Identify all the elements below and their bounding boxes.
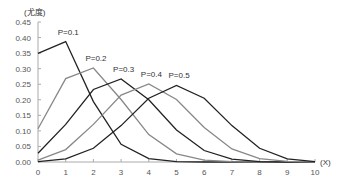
y-tick-label: 0.35 (15, 49, 31, 58)
y-axis-label: (尤度) (24, 7, 46, 17)
x-axis-label: (X) (320, 158, 331, 167)
x-tick-label: 1 (63, 168, 68, 177)
series-line (38, 84, 315, 162)
y-tick-label: 0.20 (15, 96, 31, 105)
x-tick-label: 4 (147, 168, 152, 177)
y-tick-label: 0.15 (15, 111, 31, 120)
y-tick-label: 0.25 (15, 80, 31, 89)
x-tick-label: 8 (257, 168, 262, 177)
x-tick-label: 6 (202, 168, 207, 177)
y-tick-label: 0.10 (15, 127, 31, 136)
series-label: P=0.2 (85, 54, 107, 63)
x-tick-label: 5 (174, 168, 179, 177)
series-label: P=0.5 (169, 71, 191, 80)
series-line (38, 79, 315, 162)
likelihood-line-chart: (尤度) 0.000.050.100.150.200.250.300.350.4… (0, 0, 348, 188)
y-tick-label: 0.45 (15, 18, 31, 27)
series-line (38, 42, 315, 162)
series-line (38, 68, 315, 162)
x-tick-label: 7 (230, 168, 235, 177)
x-tick-label: 3 (119, 168, 124, 177)
y-tick-label: 0.30 (15, 65, 31, 74)
series-labels: P=0.1P=0.2P=0.3P=0.4P=0.5 (58, 28, 190, 81)
x-tick-label: 2 (91, 168, 96, 177)
series-label: P=0.1 (58, 28, 80, 37)
x-tick-label: 0 (36, 168, 41, 177)
series-line (38, 86, 315, 162)
y-tick-label: 0.05 (15, 142, 31, 151)
y-tick-label: 0.00 (15, 158, 31, 167)
series-label: P=0.3 (113, 65, 135, 74)
x-tick-label: 9 (285, 168, 290, 177)
x-tick-label: 10 (311, 168, 320, 177)
y-tick-label: 0.40 (15, 34, 31, 43)
series-label: P=0.4 (141, 70, 163, 79)
y-tick-labels: 0.000.050.100.150.200.250.300.350.400.45 (15, 18, 41, 167)
data-series (38, 42, 315, 162)
